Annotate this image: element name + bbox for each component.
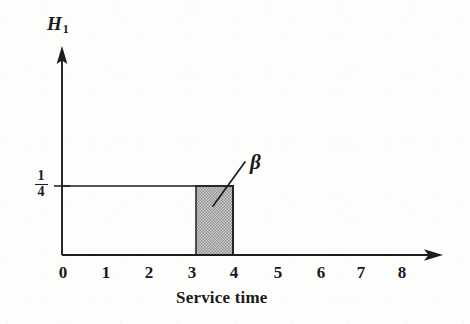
beta-rectangle xyxy=(196,186,233,255)
x-tick-label-5: 5 xyxy=(268,263,288,283)
x-tick-label-3: 3 xyxy=(182,263,202,283)
x-axis-title: Service time xyxy=(176,288,268,308)
x-tick-label-0: 0 xyxy=(53,263,73,283)
fraction-denominator: 4 xyxy=(30,185,52,199)
y-tick-label-quarter: 1 4 xyxy=(30,169,52,200)
x-tick-label-6: 6 xyxy=(311,263,331,283)
x-tick-label-1: 1 xyxy=(96,263,116,283)
y-axis-title: H1 xyxy=(47,13,69,37)
x-tick-label-4: 4 xyxy=(224,263,244,283)
x-tick-label-7: 7 xyxy=(351,263,371,283)
shaded-region-beta xyxy=(196,186,233,255)
y-axis-title-subscript: 1 xyxy=(63,22,70,36)
y-axis xyxy=(54,46,70,255)
x-axis xyxy=(62,249,443,261)
x-tick-label-2: 2 xyxy=(139,263,159,283)
beta-annotation-label: β xyxy=(250,150,261,175)
fraction-numerator: 1 xyxy=(30,169,52,183)
x-tick-label-8: 8 xyxy=(392,263,412,283)
y-axis-title-main: H xyxy=(47,13,62,34)
figure-hyperexponential-density: H1 1 4 β 0 1 2 3 4 5 6 7 8 Service time xyxy=(0,0,470,324)
